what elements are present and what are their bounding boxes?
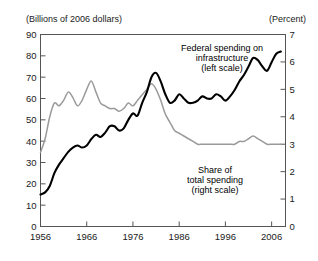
annotation-right-series: Share of total spending (right scale)	[187, 165, 243, 195]
left-tick-label: 30	[26, 157, 37, 168]
right-tick-label: 2	[290, 166, 295, 177]
left-tick-label: 60	[26, 93, 37, 104]
plot-frame	[41, 35, 286, 227]
x-tick-label: 1966	[76, 231, 97, 242]
share-of-total-spending-line	[41, 81, 281, 152]
annotation-left-line3: (left scale)	[201, 63, 243, 73]
left-tick-label: 40	[26, 136, 37, 147]
chart-plot-area: 0102030405060708090 01234567 19561966197…	[0, 0, 318, 261]
right-tick-label: 1	[290, 193, 295, 204]
annotation-right-line3: (right scale)	[191, 185, 238, 195]
annotation-left-series: Federal spending on infrastructure (left…	[181, 43, 263, 73]
annotation-left-line2: infrastructure	[196, 53, 249, 63]
left-tick-label: 80	[26, 50, 37, 61]
left-tick-label: 90	[26, 29, 37, 40]
x-tick-label: 1986	[169, 231, 190, 242]
left-tick-label: 10	[26, 200, 37, 211]
infrastructure-spending-chart: (Billions of 2006 dollars) (Percent) 010…	[0, 0, 318, 261]
x-axis-ticks: 195619661976198619962006	[30, 222, 282, 242]
right-tick-label: 3	[290, 139, 295, 150]
x-tick-label: 1996	[215, 231, 236, 242]
left-axis-ticks: 0102030405060708090	[26, 29, 46, 232]
left-tick-label: 70	[26, 72, 37, 83]
right-tick-label: 4	[290, 111, 295, 122]
right-axis-ticks: 01234567	[281, 29, 295, 232]
x-tick-label: 2006	[261, 231, 282, 242]
right-tick-label: 6	[290, 56, 295, 67]
federal-spending-infrastructure-line	[41, 52, 281, 195]
right-tick-label: 0	[290, 221, 295, 232]
left-tick-label: 50	[26, 114, 37, 125]
right-tick-label: 5	[290, 84, 295, 95]
x-tick-label: 1956	[30, 231, 51, 242]
right-tick-label: 7	[290, 29, 295, 40]
annotation-right-line1: Share of	[198, 165, 233, 175]
left-tick-label: 20	[26, 178, 37, 189]
annotation-left-line1: Federal spending on	[181, 43, 263, 53]
x-tick-label: 1976	[122, 231, 143, 242]
annotation-right-line2: total spending	[187, 175, 243, 185]
